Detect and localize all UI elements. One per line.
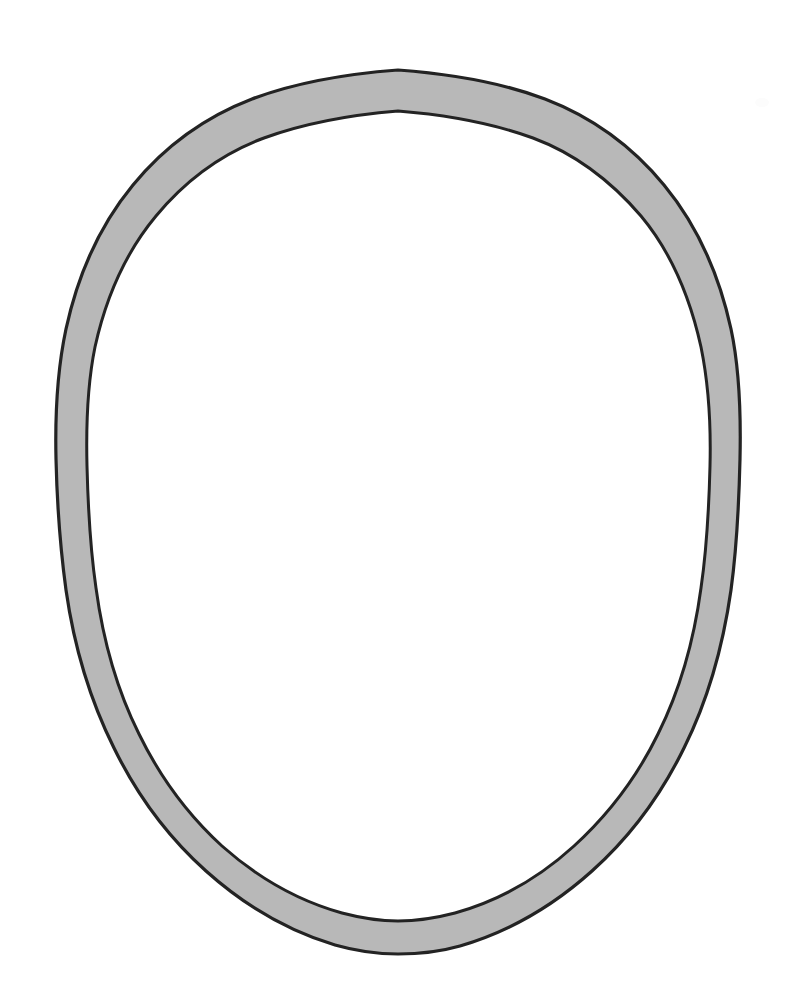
page-background [0, 0, 791, 999]
drawing-canvas [0, 0, 791, 999]
oval-ring-figure [0, 0, 791, 999]
